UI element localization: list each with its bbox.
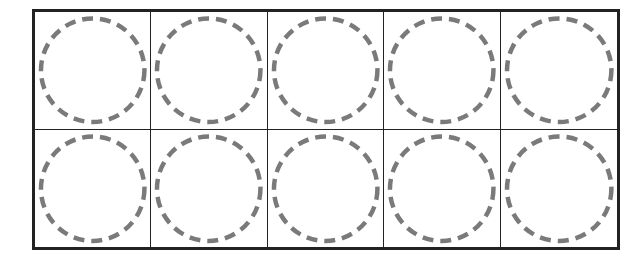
dashed-circle-icon — [268, 12, 383, 129]
ten-frame-cell[interactable] — [35, 130, 151, 248]
dashed-circle-icon — [35, 130, 150, 248]
dashed-circle-icon — [501, 130, 617, 248]
ten-frame-cell[interactable] — [151, 12, 267, 130]
dashed-circle-icon — [384, 130, 499, 248]
ten-frame-cell[interactable] — [268, 12, 384, 130]
ten-frame-cell[interactable] — [384, 130, 500, 248]
ten-frame-cell[interactable] — [35, 12, 151, 130]
ten-frame-cell[interactable] — [268, 130, 384, 248]
ten-frame-cell[interactable] — [501, 130, 617, 248]
ten-frame-cell[interactable] — [151, 130, 267, 248]
dashed-circle-icon — [384, 12, 499, 129]
ten-frame-cell[interactable] — [501, 12, 617, 130]
dashed-circle-icon — [35, 12, 150, 129]
dashed-circle-icon — [268, 130, 383, 248]
dashed-circle-icon — [151, 12, 266, 129]
ten-frame — [32, 9, 620, 250]
dashed-circle-icon — [501, 12, 617, 129]
ten-frame-cell[interactable] — [384, 12, 500, 130]
dashed-circle-icon — [151, 130, 266, 248]
